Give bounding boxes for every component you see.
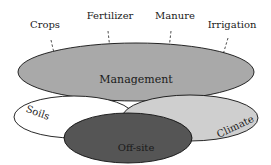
manure-label: Manure (155, 10, 195, 21)
offsite-label: Off-site (118, 142, 155, 153)
management-ellipse (18, 43, 254, 101)
offsite-ellipse (64, 113, 192, 163)
diagram-canvas: Management Soils Climate Off-site Crops … (0, 0, 271, 165)
fertilizer-label: Fertilizer (87, 10, 134, 21)
management-label: Management (99, 73, 173, 86)
crops-label: Crops (30, 19, 60, 30)
irrigation-label: Irrigation (208, 19, 257, 30)
